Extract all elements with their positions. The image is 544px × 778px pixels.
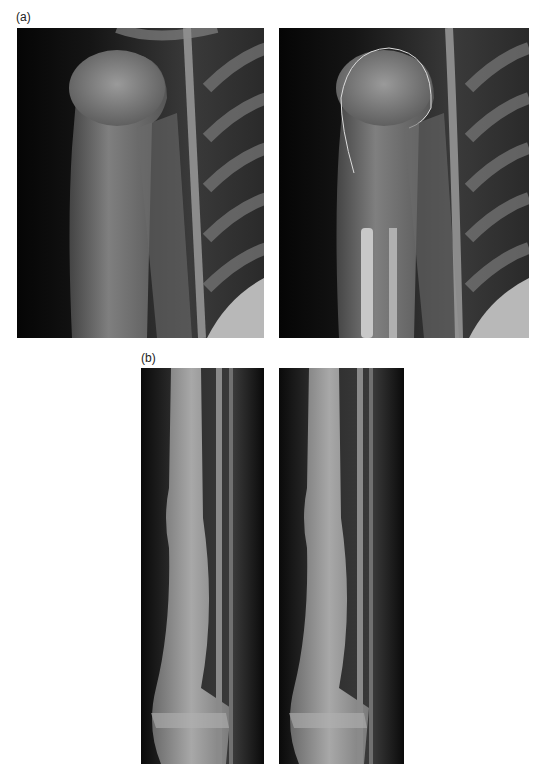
leg-xray-2 [279,368,404,764]
panel-b-label: (b) [141,351,156,365]
shoulder-xray-original [17,28,264,338]
shoulder-xray-outlined [279,28,529,338]
panel-a-label: (a) [16,10,31,24]
leg-xray-1 [141,368,264,764]
